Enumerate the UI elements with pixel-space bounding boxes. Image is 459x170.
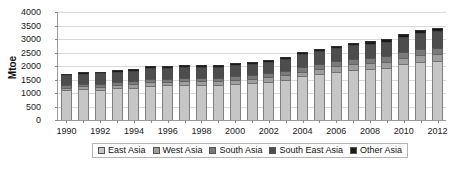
- x-axis-tick-label: 2012: [418, 126, 458, 136]
- x-axis-tick-mark: [319, 120, 320, 123]
- x-axis-tick-mark: [235, 120, 236, 123]
- legend-item[interactable]: South East Asia: [269, 146, 343, 155]
- x-axis-tick-mark: [100, 120, 101, 123]
- x-axis-tick-mark: [421, 120, 422, 123]
- x-axis-tick-mark: [286, 120, 287, 123]
- bar-2006: [331, 46, 342, 120]
- y-axis-tick-mark: [55, 80, 58, 81]
- x-axis-tick-mark: [201, 120, 202, 123]
- bar-1992: [95, 72, 106, 120]
- bar-segment: [196, 67, 207, 78]
- bar-segment: [314, 51, 325, 64]
- bar-segment: [162, 85, 173, 120]
- y-axis-tick-label: 2000: [1, 62, 41, 71]
- x-axis-tick-mark: [83, 120, 84, 123]
- bar-1995: [145, 66, 156, 120]
- bar-2003: [280, 57, 291, 120]
- bar-segment: [112, 72, 123, 83]
- bar-segment: [128, 71, 139, 82]
- bar-segment: [263, 82, 274, 120]
- x-axis-tick-mark: [387, 120, 388, 123]
- bar-segment: [398, 37, 409, 52]
- bar-segment: [365, 69, 376, 120]
- gridline: [58, 26, 446, 27]
- bar-2012: [432, 28, 443, 120]
- bar-segment: [196, 85, 207, 120]
- legend-item[interactable]: Other Asia: [350, 146, 402, 155]
- x-axis-tick-mark: [151, 120, 152, 123]
- bar-1990: [61, 74, 72, 120]
- bar-segment: [398, 64, 409, 120]
- legend-swatch-icon: [350, 147, 357, 154]
- x-axis-tick-mark: [336, 120, 337, 123]
- bar-2000: [230, 63, 241, 120]
- bar-segment: [331, 48, 342, 61]
- legend-item[interactable]: South Asia: [209, 146, 262, 155]
- chart-legend: East AsiaWest AsiaSouth AsiaSouth East A…: [92, 143, 408, 158]
- bar-segment: [297, 54, 308, 67]
- bar-segment: [247, 83, 258, 120]
- chart-figure: Mtoe 05001000150020002500300035004000 19…: [0, 0, 459, 170]
- bar-segment: [331, 72, 342, 120]
- bar-segment: [432, 61, 443, 120]
- y-axis-tick-mark: [55, 120, 58, 121]
- bar-2010: [398, 34, 409, 120]
- bar-1993: [112, 70, 123, 120]
- bar-segment: [314, 74, 325, 120]
- y-axis-tick-label: 2500: [1, 48, 41, 57]
- bar-1991: [78, 72, 89, 120]
- y-axis-tick-label: 3000: [1, 35, 41, 44]
- legend-swatch-icon: [153, 147, 160, 154]
- x-axis-tick-mark: [218, 120, 219, 123]
- y-axis-tick-label: 3500: [1, 21, 41, 30]
- bar-segment: [297, 76, 308, 120]
- bar-2007: [348, 43, 359, 120]
- bar-1998: [196, 65, 207, 120]
- x-axis-tick-mark: [66, 120, 67, 123]
- bar-segment: [432, 31, 443, 48]
- bar-1997: [179, 65, 190, 120]
- y-axis-tick-mark: [55, 12, 58, 13]
- y-axis-tick-mark: [55, 39, 58, 40]
- bar-segment: [95, 73, 106, 84]
- bar-segment: [213, 67, 224, 78]
- x-axis-tick-mark: [252, 120, 253, 123]
- bar-segment: [61, 75, 72, 85]
- legend-item[interactable]: East Asia: [98, 146, 146, 155]
- bar-segment: [381, 42, 392, 56]
- bar-2002: [263, 60, 274, 120]
- y-axis-tick-mark: [55, 26, 58, 27]
- bar-segment: [415, 33, 426, 49]
- x-axis-tick-mark: [370, 120, 371, 123]
- bar-2004: [297, 52, 308, 120]
- bar-segment: [348, 45, 359, 59]
- legend-label: West Asia: [163, 146, 203, 155]
- legend-label: South Asia: [219, 146, 262, 155]
- bar-segment: [78, 89, 89, 120]
- bar-2005: [314, 49, 325, 120]
- bar-2009: [381, 39, 392, 120]
- bar-segment: [145, 86, 156, 120]
- bar-segment: [95, 90, 106, 121]
- x-axis-tick-mark: [353, 120, 354, 123]
- y-axis-tick-mark: [55, 93, 58, 94]
- bar-segment: [415, 62, 426, 120]
- bar-segment: [247, 64, 258, 75]
- bar-segment: [179, 67, 190, 78]
- gridline: [58, 12, 446, 13]
- y-axis-tick-label: 4000: [1, 8, 41, 17]
- bar-segment: [280, 59, 291, 71]
- legend-item[interactable]: West Asia: [153, 146, 203, 155]
- bar-segment: [213, 85, 224, 120]
- bar-segment: [280, 80, 291, 120]
- bar-1996: [162, 66, 173, 120]
- bar-segment: [162, 68, 173, 79]
- bar-1999: [213, 65, 224, 120]
- x-axis-tick-mark: [168, 120, 169, 123]
- bar-segment: [78, 74, 89, 84]
- legend-swatch-icon: [209, 147, 216, 154]
- x-axis-tick-mark: [117, 120, 118, 123]
- x-axis-tick-mark: [134, 120, 135, 123]
- y-axis-tick-label: 0: [1, 116, 41, 125]
- y-axis-tick-label: 1000: [1, 89, 41, 98]
